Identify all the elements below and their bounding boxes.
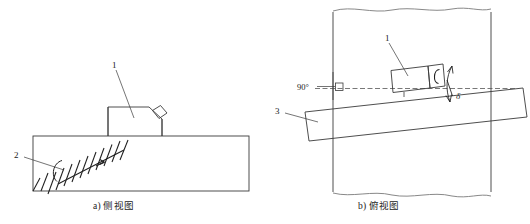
panel-b-top-view: 90° 1 3 xyxy=(275,8,527,197)
callout-1a-label: 1 xyxy=(112,60,117,70)
callout-2a-label: 2 xyxy=(14,150,19,160)
tool-carriage-block xyxy=(391,64,445,97)
technical-drawing-figure: 1 xyxy=(0,0,530,224)
angle-90-label: 90° xyxy=(297,82,309,92)
weld-seam-hatching xyxy=(33,140,128,194)
callout-1b-leader xyxy=(389,43,408,76)
callout-1b-label: 1 xyxy=(385,33,390,43)
panel-a-caption: a) 侧视图 xyxy=(93,198,134,212)
panel-b-caption: b) 俯视图 xyxy=(358,198,400,212)
strip-break-line-top xyxy=(333,8,491,11)
callout-2a-leader xyxy=(24,157,64,170)
rotated-bar xyxy=(305,88,527,141)
callout-3b-label: 3 xyxy=(275,106,280,116)
delta-angle-indicator xyxy=(446,66,453,102)
panel-a-side-view: 1 xyxy=(14,60,249,194)
right-angle-marker xyxy=(336,83,344,91)
drawing-canvas: 1 xyxy=(0,0,530,224)
welding-head-body xyxy=(108,107,162,136)
strip-break-line-bottom xyxy=(333,193,491,197)
angle-delta-label: δ xyxy=(456,91,461,101)
roller-c-glyph xyxy=(434,70,439,84)
callout-1a-leader xyxy=(116,70,134,118)
callout-3b-leader xyxy=(285,113,318,122)
